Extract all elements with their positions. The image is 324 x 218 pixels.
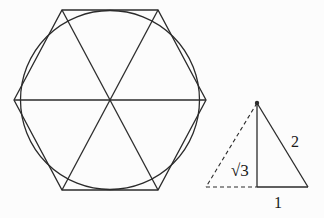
geometry-figure: √3 2 1 (0, 0, 324, 218)
geometry-figure-svg: √3 2 1 (0, 0, 324, 218)
triangle-height-label: √3 (231, 161, 249, 180)
triangle-hypotenuse (257, 103, 308, 187)
triangle-apex-dot (255, 101, 259, 105)
triangle-hypotenuse-label: 2 (291, 133, 299, 150)
triangle-base-label: 1 (274, 194, 282, 211)
